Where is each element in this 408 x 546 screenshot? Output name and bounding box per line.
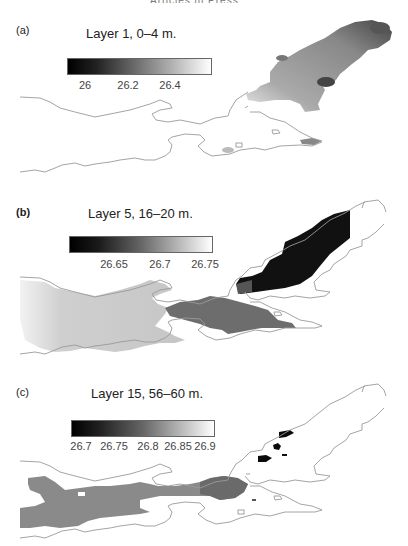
colorbar-tick-a-0: 26 bbox=[79, 79, 91, 91]
panel-label-c: (c) bbox=[16, 386, 29, 398]
coastline-a bbox=[20, 92, 322, 172]
map-panel-b bbox=[0, 180, 408, 366]
panel-b: (b) Layer 5, 16–20 m. 26.65 26.7 26.75 bbox=[0, 180, 408, 366]
colorbar-tick-b-1: 26.7 bbox=[149, 258, 170, 270]
ne-basin-shaded bbox=[246, 20, 392, 112]
panel-a: (a) Layer 1, 0–4 m. 26 26.2 26.4 bbox=[0, 0, 408, 180]
colorbar-a bbox=[67, 58, 212, 75]
colorbar-tick-b-0: 26.65 bbox=[100, 258, 128, 270]
colorbar-b bbox=[69, 236, 213, 253]
panel-c: (c) Layer 15, 56–60 m. 26.7 26.75 26.8 2… bbox=[0, 366, 408, 546]
colorbar-tick-b-2: 26.75 bbox=[191, 258, 219, 270]
colorbar-tick-c-1: 26.75 bbox=[100, 440, 128, 452]
central-trough-c bbox=[200, 476, 248, 500]
ne-patch-3 bbox=[258, 455, 272, 462]
ne-patch-1 bbox=[279, 430, 294, 438]
map-panel-a bbox=[0, 0, 408, 180]
panel-title-b: Layer 5, 16–20 m. bbox=[88, 206, 193, 221]
colorbar-tick-a-1: 26.2 bbox=[117, 79, 138, 91]
ne-patch-2 bbox=[273, 443, 281, 450]
west-basin-b bbox=[20, 280, 185, 352]
panel-title-a: Layer 1, 0–4 m. bbox=[86, 26, 176, 41]
colorbar-tick-c-0: 26.7 bbox=[70, 440, 91, 452]
panel-title-c: Layer 15, 56–60 m. bbox=[91, 386, 203, 401]
central-basin-b bbox=[165, 296, 296, 334]
panel-label-b: (b) bbox=[16, 206, 30, 218]
colorbar-tick-a-2: 26.4 bbox=[159, 79, 180, 91]
ne-basin-b bbox=[236, 210, 350, 294]
panel-label-a: (a) bbox=[16, 24, 29, 36]
colorbar-tick-c-4: 26.9 bbox=[194, 440, 215, 452]
map-panel-c bbox=[0, 366, 408, 546]
colorbar-c bbox=[71, 420, 215, 437]
colorbar-tick-c-2: 26.8 bbox=[137, 440, 158, 452]
colorbar-tick-c-3: 26.85 bbox=[164, 440, 192, 452]
